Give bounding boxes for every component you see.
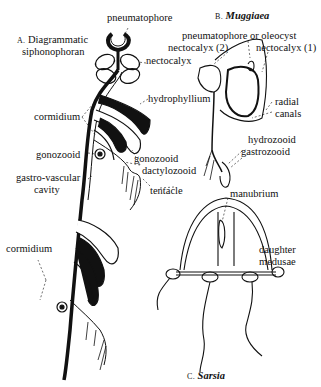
label-gonozooid-right: gonozooid — [134, 153, 178, 164]
label-nectocalyx-2: nectocalyx (2) — [168, 42, 228, 53]
label-medusae: medusae — [259, 256, 296, 267]
panel-b-letter: B. — [215, 12, 223, 21]
panel-c-title: C. Sarsia — [187, 370, 225, 382]
panel-a-title-line1: Diagrammatic — [28, 34, 88, 45]
label-cormidium-bottom: cormidium — [6, 243, 52, 254]
panel-b-drawing — [198, 39, 267, 187]
panel-c-drawing — [157, 198, 284, 372]
label-gastro-vascular: gastro-vascular — [16, 172, 80, 183]
panel-c-letter: C. — [187, 372, 195, 381]
label-radial: radial — [275, 96, 299, 107]
leader-lines — [38, 28, 272, 300]
label-gastrozooid: gastrozooid — [241, 146, 290, 157]
label-manubrium: manubrium — [230, 188, 278, 199]
panel-a-title: A. Diagrammatic — [17, 34, 88, 46]
panel-a-letter: A. — [17, 36, 25, 45]
panel-a-title-line2: siphonophoran — [22, 46, 84, 57]
label-hydrophyllium: hydrophyllium — [148, 93, 210, 104]
label-gonozooid-left: gonozooid — [36, 149, 80, 160]
label-pneumatophore: pneumatophore — [107, 12, 172, 23]
panel-a-drawing — [57, 34, 150, 380]
label-cavity: cavity — [34, 184, 60, 195]
label-canals: canals — [275, 108, 301, 119]
panel-b-title: B. Muggiaea — [215, 10, 269, 22]
label-nectocalyx-1: nectocalyx (1) — [256, 42, 316, 53]
label-pneumatophore-or-oleocyst: pneumatophore or oleocyst — [182, 30, 296, 41]
label-cormidium-top: cormidium — [34, 111, 80, 122]
label-dactylozooid: dactylozooid — [142, 165, 196, 176]
label-hydrozooid: hydrozooid — [248, 134, 296, 145]
label-daughter: daughter — [259, 244, 296, 255]
panel-c-genus: Sarsia — [198, 370, 225, 381]
label-tentacle: tentacle — [150, 185, 183, 196]
label-nectocalyx: nectocalyx — [146, 55, 191, 66]
panel-b-genus: Muggiaea — [226, 10, 270, 21]
